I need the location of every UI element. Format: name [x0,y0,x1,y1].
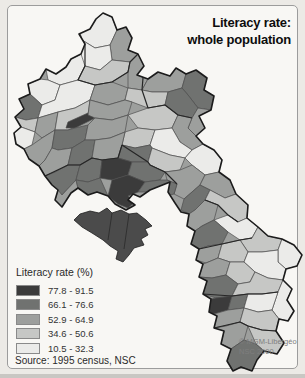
map-title-line2: whole population [187,31,291,48]
legend-rows: 77.8 - 91.566.1 - 76.652.9 - 64.934.6 - … [16,283,93,356]
legend-swatch [16,328,40,339]
legend-row: 34.6 - 50.6 [16,327,93,342]
copyright-credit: © MGM-Libergéo NSC 2000 [239,337,297,356]
source-note: Source: 1995 census, NSC [15,355,136,366]
legend-swatch [16,314,40,325]
legend-range-label: 10.5 - 32.3 [48,343,93,354]
map-title: Literacy rate: whole population [187,14,291,48]
legend-swatch [16,343,40,354]
legend-row: 10.5 - 32.3 [16,341,93,356]
scan-edge-shadow [0,374,305,378]
legend-title: Literacy rate (%) [16,266,93,278]
vientiane-inset-bird-shape [74,208,152,262]
scanned-map-page: Literacy rate: whole population Literacy… [0,0,305,378]
copyright-line2: NSC 2000 [239,347,297,357]
legend-range-label: 77.8 - 91.5 [48,285,93,296]
legend-row: 77.8 - 91.5 [16,283,93,298]
legend-row: 66.1 - 76.6 [16,298,93,313]
map-title-line1: Literacy rate: [187,14,291,31]
legend: Literacy rate (%) 77.8 - 91.566.1 - 76.6… [16,266,93,356]
legend-swatch [16,299,40,310]
copyright-line1: © MGM-Libergéo [239,337,297,347]
legend-range-label: 52.9 - 64.9 [48,314,93,325]
legend-swatch [16,285,40,296]
legend-range-label: 66.1 - 76.6 [48,299,93,310]
legend-range-label: 34.6 - 50.6 [48,328,93,339]
legend-row: 52.9 - 64.9 [16,312,93,327]
